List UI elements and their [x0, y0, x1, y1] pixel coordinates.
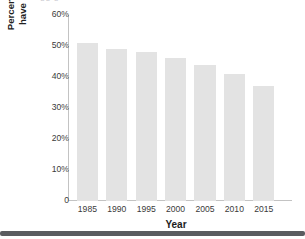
- bar: [224, 74, 245, 201]
- bar-series: [68, 14, 292, 201]
- page-bottom-shadow: [0, 236, 305, 239]
- y-axis-title: Percentage of girls who have undergone F…: [2, 0, 32, 58]
- clipped-title-text: gg g: [40, 0, 59, 1]
- x-tick-label: 2015: [249, 205, 278, 214]
- y-tick: 0: [34, 200, 69, 201]
- bar: [194, 65, 215, 201]
- x-tick-label: 2000: [161, 205, 190, 214]
- clipped-title-artifact: gg g: [0, 0, 305, 6]
- x-tick-label: 1995: [132, 205, 161, 214]
- y-tick-label: 0: [43, 196, 69, 205]
- bar: [253, 86, 274, 201]
- x-tick-label: 1985: [73, 205, 102, 214]
- x-tick-label: 1990: [102, 205, 131, 214]
- x-tick-label: 2010: [220, 205, 249, 214]
- y-axis-title-line-2: have undergone FGM: [17, 0, 29, 30]
- y-axis-title-line-1: Percentage of girls who: [5, 0, 17, 30]
- x-axis-title: Year: [60, 219, 292, 230]
- x-tick-label: 2005: [190, 205, 219, 214]
- bar-chart-figure: gg g Percentage of girls who have underg…: [0, 0, 305, 239]
- bar: [136, 52, 157, 201]
- bar: [165, 58, 186, 201]
- bar: [77, 43, 98, 201]
- bar: [106, 49, 127, 201]
